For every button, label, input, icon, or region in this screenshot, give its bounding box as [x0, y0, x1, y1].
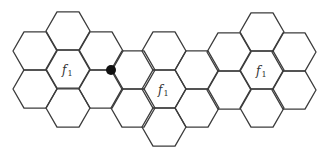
cell-label-f1: f1: [255, 64, 267, 79]
hex-cell: [46, 89, 90, 127]
hex-cell: [142, 32, 186, 70]
cell-label-f1: f1: [157, 83, 169, 98]
marker-dot: [106, 65, 116, 75]
hex-cell: [175, 51, 219, 89]
hex-cell-diagram: f1f1f1: [0, 0, 332, 159]
cell-label-f1: f1: [61, 63, 73, 78]
hex-cell: [272, 71, 316, 109]
hex-cell: [272, 33, 316, 71]
hex-cell: [111, 89, 155, 127]
hex-cell: [111, 51, 155, 89]
hex-cell: [142, 108, 186, 146]
hex-cell: [240, 89, 284, 127]
frequency-labels: f1f1f1: [61, 63, 267, 98]
hex-cells: [13, 12, 316, 146]
hex-cell: [175, 89, 219, 127]
